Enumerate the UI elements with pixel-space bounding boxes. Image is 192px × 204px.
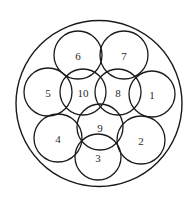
circle-label-8: 8 — [115, 87, 121, 99]
circle-label-6: 6 — [75, 50, 81, 62]
circle-label-5: 5 — [45, 87, 51, 99]
circle-label-1: 1 — [149, 89, 155, 101]
circle-label-10: 10 — [78, 87, 90, 99]
circle-label-2: 2 — [138, 135, 144, 147]
circle-diagram: 12345678910 — [0, 0, 192, 204]
circle-label-3: 3 — [95, 152, 101, 164]
circle-label-4: 4 — [55, 133, 61, 145]
circle-label-9: 9 — [97, 122, 103, 134]
circle-label-7: 7 — [121, 50, 127, 62]
